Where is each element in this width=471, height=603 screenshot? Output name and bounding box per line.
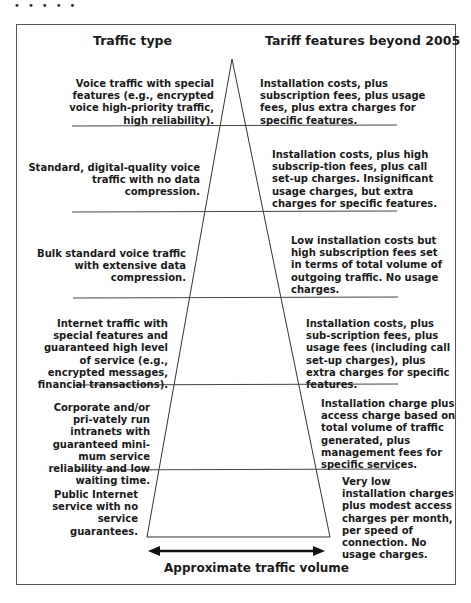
divider-line [72, 211, 397, 212]
traffic-type-text: Internet traffic with special features a… [34, 318, 168, 391]
traffic-type-text: Corporate and/or pri-vately run intranet… [44, 402, 150, 487]
divider-line [73, 297, 398, 298]
tariff-features-text: Installation charge plus access charge b… [321, 398, 457, 471]
header-traffic-type: Traffic type [93, 33, 172, 48]
tariff-features-text: Low installation costs but high subscrip… [291, 235, 451, 296]
traffic-type-text: Bulk standard voice traffic with extensi… [36, 248, 186, 285]
traffic-type-text: Public Internet service with no service … [30, 489, 138, 538]
double-arrow-icon [148, 546, 325, 556]
header-tariff-features: Tariff features beyond 2005 [265, 33, 460, 48]
traffic-type-text: Voice traffic with special features (e.g… [48, 78, 214, 127]
tariff-features-text: Very low installation charges plus modes… [342, 476, 454, 561]
tariff-features-text: Installation costs, plus sub-scription f… [306, 318, 452, 391]
tariff-features-text: Installation costs, plus high subscrip-t… [272, 149, 448, 210]
tariff-features-text: Installation costs, plus subscription fe… [260, 78, 432, 127]
axis-label: Approximate traffic volume [164, 561, 349, 575]
traffic-type-text: Standard, digital-quality voice traffic … [24, 162, 200, 199]
